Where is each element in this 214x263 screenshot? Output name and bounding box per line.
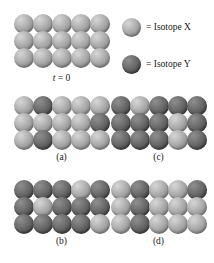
sphere-isotope-y — [33, 214, 53, 234]
sphere-grid-t0 — [14, 14, 109, 65]
sphere-isotope-x — [168, 130, 188, 150]
legend-item-isotope-y: = Isotope Y — [122, 53, 214, 75]
panel-d — [111, 180, 206, 231]
sphere-dark-icon — [122, 55, 141, 74]
sphere-grid-a — [14, 96, 109, 147]
sphere-isotope-y — [130, 214, 150, 234]
sphere-isotope-x — [90, 214, 110, 234]
sphere-isotope-x — [168, 214, 188, 234]
panel-t0 — [14, 14, 109, 65]
sphere-isotope-x — [90, 48, 110, 68]
panel-a — [14, 96, 109, 147]
sphere-isotope-x — [14, 48, 34, 68]
sphere-isotope-x — [111, 214, 131, 234]
sphere-isotope-x — [52, 130, 72, 150]
caption-t0: t = 0 — [14, 73, 109, 83]
sphere-isotope-x — [52, 48, 72, 68]
sphere-grid-b — [14, 180, 109, 231]
panel-c — [111, 96, 206, 147]
sphere-isotope-x — [90, 130, 110, 150]
sphere-isotope-y — [52, 214, 72, 234]
panel-b — [14, 180, 109, 231]
sphere-isotope-y — [14, 214, 34, 234]
sphere-isotope-y — [149, 130, 169, 150]
sphere-isotope-x — [33, 48, 53, 68]
legend: = Isotope X = Isotope Y — [122, 16, 214, 75]
legend-item-isotope-x: = Isotope X — [122, 16, 214, 38]
sphere-isotope-x — [71, 48, 91, 68]
sphere-isotope-x — [149, 214, 169, 234]
isotope-decay-figure: t = 0 = Isotope X = Isotope Y (a) (c) (b… — [0, 0, 214, 263]
caption-d: (d) — [111, 236, 206, 246]
caption-t0-equals: = — [55, 73, 65, 83]
sphere-isotope-y — [130, 130, 150, 150]
sphere-light-icon — [122, 18, 141, 37]
sphere-grid-d — [111, 180, 206, 231]
sphere-isotope-x — [14, 130, 34, 150]
sphere-grid-c — [111, 96, 206, 147]
legend-label-isotope-y: = Isotope Y — [146, 59, 191, 69]
sphere-isotope-y — [111, 130, 131, 150]
sphere-isotope-x — [187, 214, 207, 234]
caption-c: (c) — [111, 152, 206, 162]
sphere-isotope-y — [71, 214, 91, 234]
sphere-isotope-y — [187, 130, 207, 150]
sphere-isotope-x — [71, 130, 91, 150]
caption-b: (b) — [14, 236, 109, 246]
caption-t0-value: 0 — [66, 73, 71, 83]
caption-a: (a) — [14, 152, 109, 162]
legend-label-isotope-x: = Isotope X — [146, 22, 191, 32]
sphere-isotope-y — [33, 130, 53, 150]
